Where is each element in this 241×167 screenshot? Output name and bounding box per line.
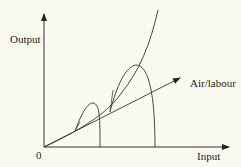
origin-label: 0 [36,150,42,161]
diagram-canvas: Output 0 Input Air/labour [0,0,241,167]
y-axis-label: Output [10,34,41,45]
exponential-output-curve [44,10,158,147]
ray-label: Air/labour [190,78,236,89]
x-axis-label: Input [197,151,220,162]
